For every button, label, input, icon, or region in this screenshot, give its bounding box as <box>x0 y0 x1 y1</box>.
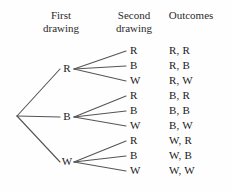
outcome-6: B, W <box>169 120 215 131</box>
edge-w-to-w <box>74 162 126 171</box>
level2-node-8: B <box>130 150 144 161</box>
level2-node-6: W <box>130 120 144 131</box>
outcome-2: R, B <box>169 60 215 71</box>
edge-root-to-w <box>17 116 60 162</box>
level2-node-2: B <box>130 60 144 71</box>
level1-node-r: R <box>61 63 73 74</box>
edge-b-to-w <box>74 117 126 126</box>
level1-node-b: B <box>61 111 73 122</box>
outcome-9: W, W <box>169 165 215 176</box>
outcome-7: W, R <box>169 135 215 146</box>
level2-node-9: W <box>130 165 144 176</box>
outcome-4: B, R <box>169 90 215 101</box>
outcome-8: W, B <box>169 150 215 161</box>
level2-node-4: R <box>130 90 144 101</box>
level1-node-w: W <box>61 156 73 167</box>
edge-root-to-b <box>17 116 60 117</box>
outcome-3: R, W <box>169 75 215 86</box>
edge-r-to-w <box>74 69 126 81</box>
outcome-1: R, R <box>169 45 215 56</box>
level2-node-7: R <box>130 135 144 146</box>
outcome-5: B, B <box>169 105 215 116</box>
level2-node-3: W <box>130 75 144 86</box>
level2-node-5: B <box>130 105 144 116</box>
tree-diagram: First drawing Second drawing Outcomes R … <box>0 0 232 192</box>
level2-node-1: R <box>130 45 144 56</box>
edge-root-to-r <box>17 69 60 116</box>
